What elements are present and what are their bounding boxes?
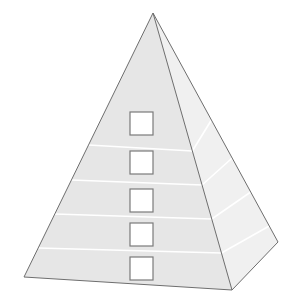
level-box-1 (130, 112, 153, 135)
pyramid-graphic (0, 0, 299, 300)
pyramid-diagram (0, 0, 299, 300)
level-box-5 (130, 257, 153, 280)
level-box-3 (130, 189, 153, 212)
level-box-4 (130, 223, 153, 246)
level-box-2 (130, 151, 153, 174)
